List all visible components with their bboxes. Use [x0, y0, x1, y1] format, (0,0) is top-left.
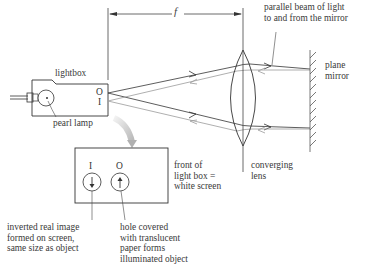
screen-object-symbol: O	[116, 161, 123, 171]
screen-image-symbol: I	[89, 161, 92, 171]
pearl-lamp-icon	[33, 90, 54, 106]
hole-covered-label: hole covered with translucent paper form…	[120, 222, 188, 264]
converging-lens	[231, 50, 256, 172]
object-symbol: O	[96, 87, 103, 97]
lightbox	[10, 80, 108, 117]
parallel-beam-leader	[272, 32, 276, 65]
outgoing-rays	[108, 63, 310, 130]
front-of-lightbox-label: front of light box = white screen	[174, 160, 221, 192]
plane-mirror-label: plane mirror	[325, 60, 349, 81]
focal-length-label: f	[172, 5, 179, 17]
image-symbol: I	[98, 97, 101, 107]
parallel-beam-label: parallel beam of light to and from the m…	[264, 2, 348, 23]
lightbox-label: lightbox	[55, 68, 86, 79]
curved-arrow-icon	[114, 118, 137, 148]
converging-lens-label: converging lens	[251, 160, 293, 181]
front-screen-view	[75, 148, 168, 220]
plane-mirror	[310, 50, 316, 152]
inverted-image-label: inverted real image formed on screen, sa…	[7, 222, 79, 254]
pearl-lamp-label: pearl lamp	[53, 118, 93, 129]
